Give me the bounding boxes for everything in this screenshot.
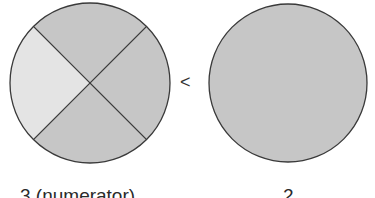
right-circle bbox=[209, 4, 367, 162]
right-circle-label: 2 bbox=[283, 186, 294, 198]
left-circle-quartered bbox=[10, 3, 170, 163]
right-circle-whole bbox=[209, 4, 367, 162]
less-than-symbol: < bbox=[180, 73, 191, 91]
left-circle-label: 3 (numerator) bbox=[20, 186, 135, 198]
fraction-diagram bbox=[0, 0, 375, 198]
